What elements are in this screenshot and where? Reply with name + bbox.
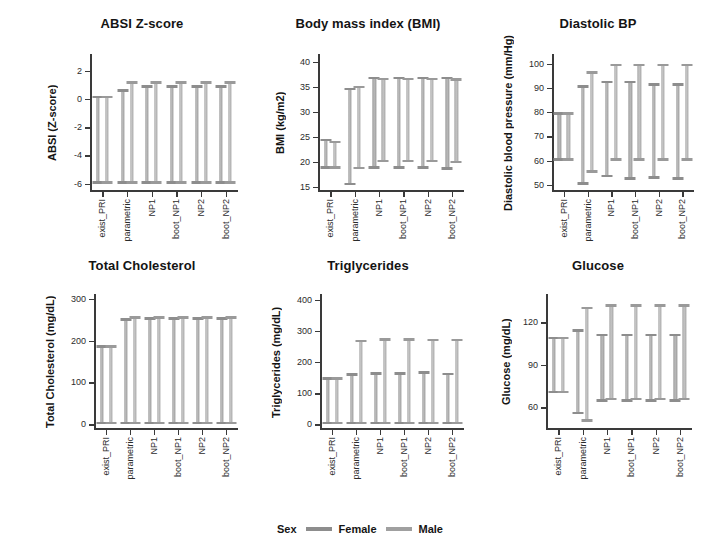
x-axis-tick: [176, 192, 177, 197]
error-bar-stem: [576, 329, 579, 414]
y-axis-tick: [541, 365, 546, 366]
error-bar-cap-lower: [369, 166, 380, 169]
x-axis-tick: [178, 430, 179, 435]
error-bar-cap-upper: [451, 339, 462, 342]
error-bar-cap-upper: [601, 81, 612, 84]
x-axis-tick: [452, 430, 453, 435]
error-bar-stem: [552, 337, 555, 394]
error-bar-cap-upper: [379, 338, 390, 341]
error-bar-cap-upper: [354, 86, 365, 89]
error-bar-cap-lower: [355, 422, 366, 425]
x-axis-tick: [428, 192, 429, 197]
y-axis-label-chol: Total Cholesterol (mg/dL): [44, 294, 56, 430]
error-bar-cap-upper: [681, 64, 692, 67]
x-axis-tick: [127, 192, 128, 197]
x-axis-tick: [106, 430, 107, 435]
error-bar-stem: [229, 81, 232, 183]
x-axis-tick: [452, 192, 453, 197]
error-bar-cap-upper: [142, 85, 153, 88]
y-axis-tick: [313, 162, 318, 163]
error-bar-cap-lower: [200, 181, 211, 184]
error-bar-stem: [406, 78, 409, 163]
y-axis-tick: [547, 136, 552, 137]
y-axis-tick-label: 100: [529, 59, 544, 69]
panel-trig: Triglycerides4003002001000exist_PRIparam…: [262, 258, 474, 496]
y-axis-tick: [313, 112, 318, 113]
error-bar-cap-upper: [672, 83, 683, 86]
legend-label-male: Male: [419, 523, 443, 535]
y-axis-tick: [547, 112, 552, 113]
error-bar-cap-upper: [378, 78, 389, 81]
error-bar-stem: [121, 89, 124, 183]
y-axis-tick: [315, 331, 320, 332]
error-bar-stem: [105, 96, 108, 184]
y-axis-tick: [85, 99, 90, 100]
error-bar-stem: [397, 77, 400, 169]
error-bar-cap-upper: [670, 334, 681, 337]
error-bar-cap-upper: [129, 316, 140, 319]
error-bar-stem: [157, 316, 160, 424]
error-bar-cap-lower: [402, 160, 413, 163]
x-axis-tick-label: NP1: [149, 437, 159, 455]
error-bar-stem: [133, 316, 136, 424]
legend: Sex Female Male: [0, 523, 720, 535]
legend-title: Sex: [277, 523, 297, 535]
y-axis-tick-label: 300: [297, 326, 312, 336]
y-axis-tick: [541, 322, 546, 323]
error-bar-cap-upper: [578, 85, 589, 88]
error-bar-cap-lower: [151, 181, 162, 184]
error-bar-cap-lower: [573, 412, 584, 415]
x-axis-tick-label: boot_NP2: [677, 199, 687, 239]
y-axis-tick-label: 0: [81, 419, 86, 429]
error-bar-cap-lower: [563, 158, 574, 161]
y-axis-tick: [547, 161, 552, 162]
x-axis-line: [94, 428, 238, 430]
y-axis-tick-label: 90: [528, 360, 538, 370]
error-bar-cap-upper: [634, 64, 645, 67]
error-bar-stem: [629, 81, 632, 180]
error-bar-stem: [100, 345, 103, 424]
error-bar-stem: [195, 85, 198, 184]
error-bar-cap-lower: [442, 167, 453, 170]
error-bar-stem: [638, 64, 641, 161]
error-bar-stem: [625, 334, 628, 402]
y-axis-tick-label: 400: [297, 295, 312, 305]
y-axis-tick-label: 100: [71, 377, 86, 387]
error-bar-cap-lower: [587, 170, 598, 173]
error-bar-cap-upper: [201, 316, 212, 319]
error-bar-cap-upper: [331, 377, 342, 380]
y-axis-tick: [315, 393, 320, 394]
error-bar-stem: [683, 304, 686, 400]
panel-title-dbp: Diastolic BP: [492, 16, 704, 31]
y-axis-tick-label: -2: [74, 122, 82, 132]
error-bar-stem: [398, 372, 401, 424]
y-axis-tick-label: 2: [77, 66, 82, 76]
y-axis-tick-label: 120: [523, 317, 538, 327]
error-bar-cap-upper: [175, 81, 186, 84]
x-axis-tick: [682, 192, 683, 197]
x-axis-tick-label: boot_NP1: [626, 437, 636, 477]
y-axis-tick: [313, 62, 318, 63]
error-bar-stem: [649, 334, 652, 402]
x-axis-line: [552, 190, 694, 192]
error-bar-stem: [446, 373, 449, 425]
x-axis-tick: [202, 430, 203, 435]
y-axis-tick: [315, 300, 320, 301]
error-bar-cap-upper: [649, 83, 660, 86]
panel-title-glucose: Glucose: [492, 258, 704, 273]
x-axis-tick-label: parametric: [578, 437, 588, 480]
y-axis-tick: [547, 64, 552, 65]
error-bar-stem: [172, 317, 175, 424]
y-axis-tick: [541, 407, 546, 408]
x-axis-tick-label: parametric: [125, 437, 135, 480]
x-axis-tick: [332, 430, 333, 435]
error-bar-stem: [335, 377, 338, 424]
y-axis-tick: [85, 127, 90, 128]
x-axis-tick: [403, 192, 404, 197]
x-axis-tick: [564, 192, 565, 197]
error-bar-stem: [567, 112, 570, 160]
error-bar-cap-lower: [329, 166, 340, 169]
y-axis-line: [552, 54, 554, 192]
error-bar-cap-upper: [582, 307, 593, 310]
x-axis-tick: [659, 192, 660, 197]
